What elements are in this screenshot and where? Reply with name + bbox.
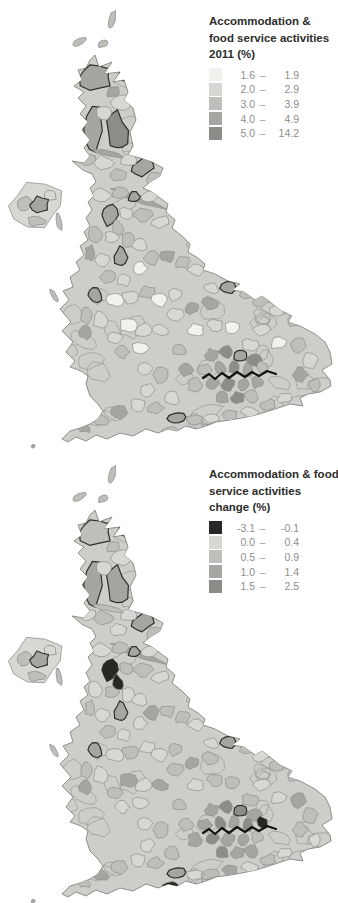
island-region bbox=[99, 40, 108, 48]
range-max: 2.9 bbox=[270, 83, 299, 95]
range-min: 5.0 bbox=[227, 127, 255, 139]
district-boundary bbox=[166, 83, 192, 101]
map-region bbox=[121, 774, 138, 787]
district-boundary bbox=[232, 615, 248, 635]
range-dash: – bbox=[255, 536, 270, 548]
district-boundary bbox=[301, 639, 325, 660]
range-dash: – bbox=[255, 69, 270, 81]
district-boundary bbox=[292, 606, 308, 623]
range-dash: – bbox=[255, 522, 270, 534]
legend-swatch bbox=[209, 565, 222, 578]
range-dash: – bbox=[255, 566, 270, 578]
district-boundary bbox=[269, 688, 284, 705]
district-boundary bbox=[199, 879, 226, 901]
range-dash: – bbox=[255, 83, 270, 95]
legend-2011: Accommodation & food service activities … bbox=[209, 13, 337, 140]
district-boundary bbox=[142, 64, 157, 76]
figure-two-cartograms: Accommodation & food service activities … bbox=[0, 0, 338, 903]
island-region bbox=[31, 444, 35, 448]
island-region bbox=[56, 213, 62, 230]
district-boundary bbox=[301, 184, 325, 205]
district-boundary bbox=[197, 233, 220, 250]
legend-row: 1.0 – 1.4 bbox=[209, 564, 337, 579]
district-boundary bbox=[197, 688, 220, 705]
legend-change-rows: -3.1 – -0.1 0.0 – 0.4 0.5 – 0.9 1.0 – 1.… bbox=[209, 521, 337, 594]
range-dash: – bbox=[255, 113, 270, 125]
range-dash: – bbox=[255, 580, 270, 592]
legend-swatch bbox=[209, 68, 222, 81]
district-boundary bbox=[164, 611, 183, 628]
district-boundary bbox=[187, 694, 214, 708]
district-boundary bbox=[232, 255, 247, 267]
district-boundary bbox=[253, 149, 276, 169]
legend-swatch bbox=[209, 580, 222, 593]
legend-row: 0.5 – 0.9 bbox=[209, 550, 337, 565]
map-region bbox=[120, 207, 133, 219]
district-boundary bbox=[291, 265, 309, 282]
range-min: 4.0 bbox=[227, 113, 255, 125]
legend-change-title-line: service activities bbox=[209, 483, 337, 500]
legend-row: 4.0 – 4.9 bbox=[209, 111, 337, 126]
range-min: 1.6 bbox=[227, 69, 255, 81]
district-boundary bbox=[295, 595, 312, 613]
district-boundary bbox=[253, 604, 276, 624]
map-region bbox=[121, 319, 138, 332]
range-dash: – bbox=[255, 551, 270, 563]
island-region bbox=[50, 744, 58, 757]
legend-row: 2.0 – 2.9 bbox=[209, 82, 337, 97]
range-max: 0.4 bbox=[270, 536, 299, 548]
map-region bbox=[107, 542, 119, 552]
island-region bbox=[50, 289, 58, 302]
island-region bbox=[31, 899, 35, 903]
range-min: 1.0 bbox=[227, 566, 255, 578]
island-region bbox=[73, 492, 87, 501]
legend-2011-rows: 1.6 – 1.9 2.0 – 2.9 3.0 – 3.9 4.0 – 4.9 bbox=[209, 68, 337, 141]
legend-2011-title-line: food service activities bbox=[209, 30, 337, 47]
district-boundary bbox=[302, 771, 315, 783]
district-boundary bbox=[292, 151, 308, 168]
island-region bbox=[56, 668, 62, 685]
district-boundary bbox=[61, 188, 74, 211]
district-boundary bbox=[179, 174, 207, 195]
district-boundary bbox=[269, 233, 284, 250]
district-boundary bbox=[250, 144, 282, 167]
range-max: -0.1 bbox=[270, 522, 299, 534]
island-region bbox=[99, 495, 108, 503]
island-region bbox=[108, 11, 115, 29]
map-region bbox=[239, 286, 255, 299]
range-min: -3.1 bbox=[227, 522, 255, 534]
range-max: 14.2 bbox=[270, 127, 299, 139]
district-boundary bbox=[195, 652, 212, 670]
district-boundary bbox=[164, 156, 183, 173]
range-min: 0.5 bbox=[227, 551, 255, 563]
legend-2011-title-line: 2011 (%) bbox=[209, 46, 337, 63]
district-boundary bbox=[142, 519, 157, 531]
legend-row: 5.0 – 14.2 bbox=[209, 126, 337, 141]
district-boundary bbox=[306, 609, 333, 628]
legend-swatch bbox=[209, 97, 222, 110]
range-max: 0.9 bbox=[270, 551, 299, 563]
legend-swatch bbox=[209, 521, 222, 534]
legend-change: Accommodation & food service activities … bbox=[209, 466, 337, 593]
district-boundary bbox=[255, 637, 279, 650]
district-boundary bbox=[291, 720, 309, 737]
map-region bbox=[234, 805, 247, 816]
range-min: 0.0 bbox=[227, 536, 255, 548]
district-boundary bbox=[306, 154, 333, 173]
legend-row: 1.5 – 2.5 bbox=[209, 579, 337, 594]
map-region bbox=[120, 662, 133, 674]
district-boundary bbox=[302, 316, 315, 328]
district-boundary bbox=[195, 197, 212, 215]
map-region bbox=[234, 350, 247, 361]
legend-2011-title-line: Accommodation & bbox=[209, 13, 337, 30]
range-min: 2.0 bbox=[227, 83, 255, 95]
range-max: 3.9 bbox=[270, 98, 299, 110]
legend-row: 1.6 – 1.9 bbox=[209, 68, 337, 83]
district-boundary bbox=[179, 629, 207, 650]
district-boundary bbox=[61, 643, 74, 666]
legend-2011-title: Accommodation & food service activities … bbox=[209, 13, 337, 63]
map-region bbox=[239, 741, 255, 754]
range-min: 1.5 bbox=[227, 580, 255, 592]
range-max: 1.9 bbox=[270, 69, 299, 81]
district-boundary bbox=[232, 160, 248, 180]
